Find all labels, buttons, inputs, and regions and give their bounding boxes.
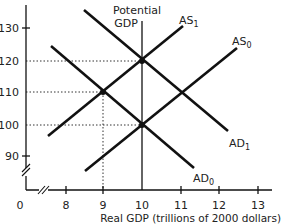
as1-curve [48, 26, 183, 136]
x-axis-title: Real GDP (trillions of 2000 dollars) [100, 212, 281, 224]
equilibrium-point [139, 58, 145, 64]
ad0-label: AD0 [193, 172, 214, 187]
x-tick-label: 8 [63, 199, 70, 212]
ad1-label: AD1 [229, 137, 250, 152]
x-tick-label: 10 [135, 199, 149, 212]
y-tick-label: 120 [0, 55, 19, 68]
y-tick-labels: 130 120 110 100 90 [0, 22, 19, 163]
as0-label: AS0 [232, 35, 252, 50]
equilibrium-point [139, 122, 145, 128]
ad0-curve [51, 46, 194, 168]
as0-curve [85, 48, 237, 171]
chart: 130 120 110 100 90 0 8 9 10 11 12 13 Rea… [0, 0, 284, 224]
y-tick-label: 130 [0, 22, 19, 35]
equilibrium-point [100, 89, 106, 95]
as1-label: AS1 [179, 14, 199, 29]
x-tick-labels: 8 9 10 11 12 13 [63, 199, 266, 212]
x-tick-label: 13 [251, 199, 265, 212]
origin-label: 0 [17, 199, 24, 212]
x-tick-label: 11 [174, 199, 188, 212]
potential-gdp-label-line1: Potential [113, 4, 161, 17]
reference-lines [26, 61, 142, 190]
potential-gdp-label-line2: GDP [114, 17, 138, 30]
x-tick-label: 12 [212, 199, 226, 212]
y-tick-label: 100 [0, 119, 19, 132]
y-tick-label: 110 [0, 86, 19, 99]
x-tick-label: 9 [100, 199, 107, 212]
axes [22, 5, 272, 194]
y-tick-label: 90 [5, 150, 19, 163]
